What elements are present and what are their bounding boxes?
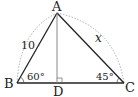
triangle-diagram: A B C D 10 x 60° 45° <box>0 0 138 97</box>
right-angle-marker <box>57 78 62 83</box>
point-label-c: C <box>125 80 135 95</box>
side-label-ab: 10 <box>21 39 35 52</box>
angle-label-b: 60° <box>27 71 45 82</box>
angle-arc-b <box>21 77 25 83</box>
point-label-d: D <box>53 84 63 97</box>
side-ac <box>57 13 124 83</box>
point-label-a: A <box>51 0 62 14</box>
angle-label-c: 45° <box>96 71 114 82</box>
side-label-ac: x <box>95 31 102 45</box>
point-label-b: B <box>4 76 14 91</box>
angle-arc-c <box>117 78 119 83</box>
